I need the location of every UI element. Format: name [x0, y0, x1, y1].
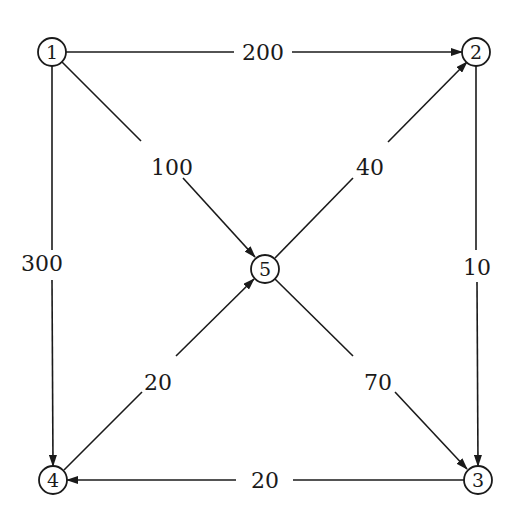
node-4-label: 4 — [47, 469, 59, 491]
weight-5-3: 70 — [364, 370, 392, 395]
node-4: 4 — [39, 466, 67, 494]
node-1-label: 1 — [46, 41, 58, 63]
weight-4-5: 20 — [144, 370, 172, 395]
weight-1-5: 100 — [151, 155, 193, 180]
node-2-label: 2 — [470, 41, 482, 63]
node-5-label: 5 — [259, 258, 271, 280]
weight-1-2: 200 — [242, 40, 284, 65]
weight-3-4: 20 — [251, 468, 279, 493]
node-3: 3 — [464, 466, 492, 494]
node-1: 1 — [38, 38, 66, 66]
weight-2-3: 10 — [463, 255, 491, 280]
node-2: 2 — [462, 38, 490, 66]
graph-canvas: 200 100 300 40 10 20 70 20 1 2 3 4 5 — [0, 0, 520, 516]
node-5: 5 — [251, 255, 279, 283]
node-3-label: 3 — [472, 469, 484, 491]
weight-1-4: 300 — [21, 251, 63, 276]
weight-5-2: 40 — [356, 155, 384, 180]
